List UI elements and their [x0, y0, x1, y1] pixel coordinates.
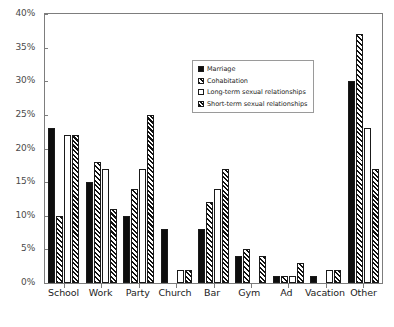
- bar: [123, 216, 130, 283]
- x-axis-tick-mark: [363, 284, 364, 288]
- y-axis-tick-label: 20%: [16, 143, 35, 153]
- bar: [235, 256, 242, 283]
- bar-group: [307, 14, 344, 283]
- bar: [147, 115, 154, 283]
- y-axis-tick-mark: [44, 182, 48, 183]
- bar: [94, 162, 101, 283]
- bar-group: [195, 14, 232, 283]
- x-axis-tick-mark: [214, 284, 215, 288]
- bar: [243, 249, 250, 283]
- y-axis: 0%5%10%15%20%25%30%35%40%: [0, 13, 40, 284]
- bar: [102, 169, 109, 283]
- y-axis-tick-mark: [44, 14, 48, 15]
- bar: [326, 270, 333, 283]
- legend-swatch-icon: [198, 101, 204, 107]
- x-axis-tick-mark: [64, 284, 65, 288]
- legend-item: Cohabitation: [198, 78, 307, 85]
- y-axis-tick-mark: [44, 81, 48, 82]
- bar: [222, 169, 229, 283]
- bar-chart: 0%5%10%15%20%25%30%35%40% SchoolWorkPart…: [0, 0, 394, 327]
- y-axis-tick-label: 35%: [16, 42, 35, 52]
- bar: [185, 270, 192, 283]
- legend-label: Long-term sexual relationships: [207, 89, 306, 96]
- y-axis-tick-mark: [44, 249, 48, 250]
- x-axis-tick-mark: [176, 284, 177, 288]
- x-axis: SchoolWorkPartyChurchBarGymAdVacationOth…: [45, 287, 382, 298]
- bar: [131, 189, 138, 283]
- bar: [72, 135, 79, 283]
- y-axis-tick-mark: [44, 283, 48, 284]
- plot-area: [45, 14, 382, 283]
- bar: [64, 135, 71, 283]
- bar-group: [45, 14, 82, 283]
- legend-label: Marriage: [207, 66, 235, 73]
- bar: [214, 189, 221, 283]
- bar: [289, 276, 296, 283]
- bar: [273, 276, 280, 283]
- y-axis-tick-label: 0%: [21, 277, 35, 287]
- bar: [48, 128, 55, 283]
- bar-group: [157, 14, 194, 283]
- bar: [310, 276, 317, 283]
- x-axis-tick-label: Ad: [268, 287, 305, 298]
- x-axis-tick-label: Work: [82, 287, 119, 298]
- y-axis-tick-label: 10%: [16, 210, 35, 220]
- x-axis-tick-label: Vacation: [305, 287, 345, 298]
- bar: [259, 256, 266, 283]
- bar: [372, 169, 379, 283]
- bar: [348, 81, 355, 283]
- x-axis-tick-label: Gym: [231, 287, 268, 298]
- bar-group: [120, 14, 157, 283]
- x-axis-tick-mark: [139, 284, 140, 288]
- y-axis-tick-label: 25%: [16, 109, 35, 119]
- bar: [281, 276, 288, 283]
- y-axis-tick-label: 5%: [21, 243, 35, 253]
- x-axis-tick-mark: [101, 284, 102, 288]
- chart-legend: MarriageCohabitationLong-term sexual rel…: [192, 60, 314, 113]
- x-axis-tick-mark: [326, 284, 327, 288]
- bar-group: [345, 14, 382, 283]
- bar-group: [270, 14, 307, 283]
- y-axis-tick-label: 15%: [16, 176, 35, 186]
- x-axis-tick-label: School: [45, 287, 82, 298]
- bar: [334, 270, 341, 283]
- bar: [356, 34, 363, 283]
- legend-item: Short-term sexual relationships: [198, 101, 307, 108]
- x-axis-tick-label: Other: [345, 287, 382, 298]
- legend-item: Long-term sexual relationships: [198, 89, 307, 96]
- y-axis-tick-mark: [44, 48, 48, 49]
- bar: [177, 270, 184, 283]
- x-axis-tick-label: Bar: [194, 287, 231, 298]
- bar: [86, 182, 93, 283]
- bar: [110, 209, 117, 283]
- x-axis-tick-mark: [251, 284, 252, 288]
- legend-swatch-icon: [198, 66, 204, 72]
- x-axis-tick-label: Party: [119, 287, 156, 298]
- y-axis-tick-mark: [44, 216, 48, 217]
- bar: [56, 216, 63, 283]
- legend-label: Short-term sexual relationships: [207, 101, 307, 108]
- y-axis-tick-label: 40%: [16, 8, 35, 18]
- bar-group: [82, 14, 119, 283]
- legend-swatch-icon: [198, 89, 204, 95]
- bar: [297, 263, 304, 283]
- bar: [206, 202, 213, 283]
- legend-label: Cohabitation: [207, 78, 248, 85]
- legend-swatch-icon: [198, 78, 204, 84]
- x-axis-tick-mark: [288, 284, 289, 288]
- y-axis-tick-label: 30%: [16, 75, 35, 85]
- bar: [139, 169, 146, 283]
- bar: [161, 229, 168, 283]
- y-axis-tick-mark: [44, 115, 48, 116]
- x-axis-tick-label: Church: [156, 287, 193, 298]
- y-axis-tick-mark: [44, 149, 48, 150]
- legend-item: Marriage: [198, 66, 307, 73]
- bar: [198, 229, 205, 283]
- bar: [364, 128, 371, 283]
- bar-group: [232, 14, 269, 283]
